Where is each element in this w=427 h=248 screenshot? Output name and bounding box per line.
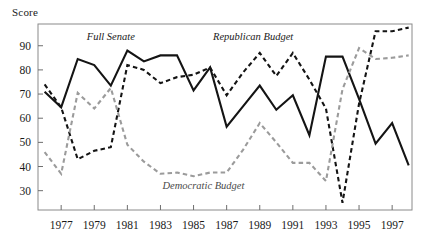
x-tick-label: 1981 (116, 219, 139, 231)
x-tick-label: 1995 (348, 219, 371, 231)
data-series-group (45, 28, 409, 203)
x-tick-label: 1979 (83, 219, 106, 231)
y-tick-label: 40 (20, 161, 32, 173)
series-label-republican-budget: Republican Budget (212, 31, 294, 42)
series-label-full-senate: Full Senate (86, 31, 135, 42)
x-tick-label: 1993 (314, 219, 337, 231)
x-tick-label: 1997 (381, 219, 404, 231)
chart-container: Score 30405060708090 1977197919811983198… (0, 0, 427, 248)
series-label-democratic-budget: Democratic Budget (162, 180, 246, 191)
y-tick-label: 30 (20, 185, 32, 197)
y-axis-ticks: 30405060708090 (20, 40, 44, 197)
series-line-full-senate (45, 51, 409, 166)
x-axis-ticks: 1977197919811983198519871989199119931995… (50, 205, 404, 231)
x-tick-label: 1983 (149, 219, 172, 231)
line-chart-plot: 30405060708090 1977197919811983198519871… (0, 0, 427, 248)
x-tick-label: 1977 (50, 219, 73, 231)
x-tick-label: 1991 (281, 219, 304, 231)
x-tick-label: 1985 (182, 219, 205, 231)
y-tick-label: 50 (20, 136, 32, 148)
x-tick-label: 1989 (248, 219, 271, 231)
y-tick-label: 90 (20, 40, 32, 52)
series-line-democratic-budget (45, 48, 409, 181)
y-tick-label: 60 (20, 112, 32, 124)
y-tick-label: 80 (20, 64, 32, 76)
y-tick-label: 70 (20, 88, 32, 100)
x-tick-label: 1987 (215, 219, 238, 231)
series-line-republican-budget (45, 28, 409, 203)
